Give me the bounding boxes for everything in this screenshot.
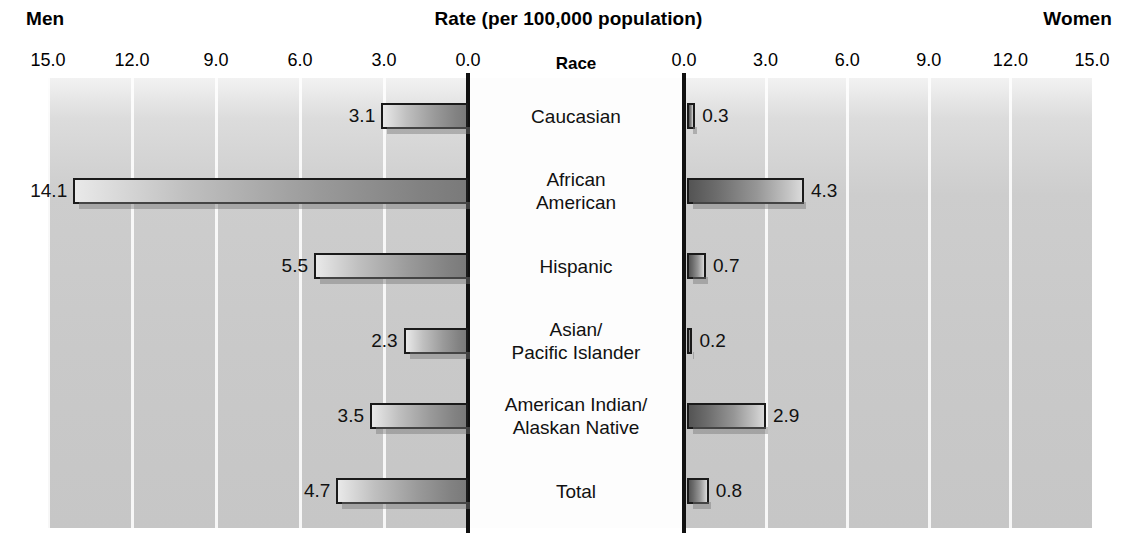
- men-bar-value: 2.3: [371, 330, 397, 352]
- women-bar-group: 0.8: [684, 453, 1137, 528]
- women-bar-value: 4.3: [811, 180, 837, 202]
- chart-row: 5.5Hispanic0.7: [0, 228, 1137, 303]
- women-bar-group: 0.2: [684, 303, 1137, 378]
- right-tick-15-0: 15.0: [1074, 50, 1109, 71]
- right-tick-9-0: 9.0: [916, 50, 941, 71]
- left-tick-3-0: 3.0: [371, 50, 396, 71]
- category-column-header: Race: [556, 54, 597, 74]
- chart-row: 3.1Caucasian0.3: [0, 78, 1137, 153]
- women-bar: [687, 103, 695, 129]
- women-bar-value: 0.8: [716, 480, 742, 502]
- men-bar-value: 4.7: [304, 480, 330, 502]
- right-tick-0-0: 0.0: [671, 50, 696, 71]
- men-bar-value: 3.5: [338, 405, 364, 427]
- men-bar: [73, 178, 468, 204]
- women-bar-value: 0.3: [702, 105, 728, 127]
- men-bar: [314, 253, 468, 279]
- men-bar-value: 3.1: [349, 105, 375, 127]
- category-label-line2: Alaskan Native: [470, 416, 682, 439]
- women-bar: [687, 403, 766, 429]
- chart-row: 2.3Asian/Pacific Islander0.2: [0, 303, 1137, 378]
- chart-title: Rate (per 100,000 population): [0, 8, 1137, 30]
- women-bar-value: 2.9: [773, 405, 799, 427]
- category-label-line1: Total: [470, 479, 682, 502]
- men-bar-group: 5.5: [0, 228, 468, 303]
- category-label: Hispanic: [470, 254, 682, 277]
- men-bar: [336, 478, 468, 504]
- category-label: American Indian/Alaskan Native: [470, 393, 682, 439]
- women-bar-group: 0.3: [684, 78, 1137, 153]
- chart-row: 3.5American Indian/Alaskan Native2.9: [0, 378, 1137, 453]
- chart-row: 14.1AfricanAmerican4.3: [0, 153, 1137, 228]
- women-bar: [687, 253, 706, 279]
- women-bar: [687, 178, 804, 204]
- men-bar-value: 5.5: [282, 255, 308, 277]
- category-label-line1: Caucasian: [470, 104, 682, 127]
- right-tick-6-0: 6.0: [835, 50, 860, 71]
- men-bar: [370, 403, 468, 429]
- men-bar-group: 2.3: [0, 303, 468, 378]
- women-bar-group: 0.7: [684, 228, 1137, 303]
- category-label-line1: Hispanic: [470, 254, 682, 277]
- chart-row: 4.7Total0.8: [0, 453, 1137, 528]
- women-bar-group: 4.3: [684, 153, 1137, 228]
- women-side-label: Women: [1043, 8, 1112, 30]
- left-tick-9-0: 9.0: [203, 50, 228, 71]
- left-tick-12-0: 12.0: [114, 50, 149, 71]
- women-bar-group: 2.9: [684, 378, 1137, 453]
- women-bar: [687, 478, 709, 504]
- category-label: Asian/Pacific Islander: [470, 318, 682, 364]
- right-tick-3-0: 3.0: [753, 50, 778, 71]
- right-tick-12-0: 12.0: [993, 50, 1028, 71]
- women-bar: [687, 328, 692, 354]
- category-label-line1: American Indian/: [470, 393, 682, 416]
- left-tick-0-0: 0.0: [455, 50, 480, 71]
- men-bar: [381, 103, 468, 129]
- men-bar-group: 3.1: [0, 78, 468, 153]
- men-bar-group: 4.7: [0, 453, 468, 528]
- category-label-line2: American: [470, 191, 682, 214]
- left-tick-6-0: 6.0: [287, 50, 312, 71]
- category-label: Total: [470, 479, 682, 502]
- left-tick-15-0: 15.0: [30, 50, 65, 71]
- women-bar-value: 0.2: [699, 330, 725, 352]
- category-label: AfricanAmerican: [470, 168, 682, 214]
- category-label-line1: Asian/: [470, 318, 682, 341]
- men-bar-group: 14.1: [0, 153, 468, 228]
- men-bar: [404, 328, 468, 354]
- category-label: Caucasian: [470, 104, 682, 127]
- chart-root: Men Rate (per 100,000 population) Women …: [0, 0, 1137, 551]
- women-bar-value: 0.7: [713, 255, 739, 277]
- category-label-line2: Pacific Islander: [470, 341, 682, 364]
- men-bar-value: 14.1: [30, 180, 67, 202]
- category-label-line1: African: [470, 168, 682, 191]
- men-bar-group: 3.5: [0, 378, 468, 453]
